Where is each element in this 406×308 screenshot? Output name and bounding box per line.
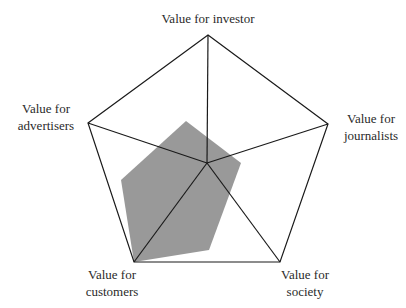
- axis-label-society-line2: society: [272, 283, 338, 300]
- axis-label-advertisers-line2: advertisers: [8, 117, 84, 134]
- shaded-data-polygon: [121, 121, 241, 262]
- axis-label-journalists-line2: journalists: [336, 127, 406, 144]
- axis-label-society: Value for society: [272, 266, 338, 300]
- axis-label-customers-line2: customers: [74, 283, 150, 300]
- axis-spoke-journalists: [207, 124, 328, 163]
- axis-label-advertisers-line1: Value for: [8, 100, 84, 117]
- axis-label-customers: Value for customers: [74, 266, 150, 300]
- radar-chart: Value for investor Value for journalists…: [0, 0, 406, 308]
- axis-label-customers-line1: Value for: [74, 266, 150, 283]
- axis-label-journalists: Value for journalists: [336, 110, 406, 144]
- axis-label-advertisers: Value for advertisers: [8, 100, 84, 134]
- axis-label-society-line1: Value for: [272, 266, 338, 283]
- axis-label-investor-line1: Value for investor: [152, 10, 264, 27]
- radar-plot-area: [0, 0, 406, 308]
- axis-label-investor: Value for investor: [152, 10, 264, 27]
- axis-label-journalists-line1: Value for: [336, 110, 406, 127]
